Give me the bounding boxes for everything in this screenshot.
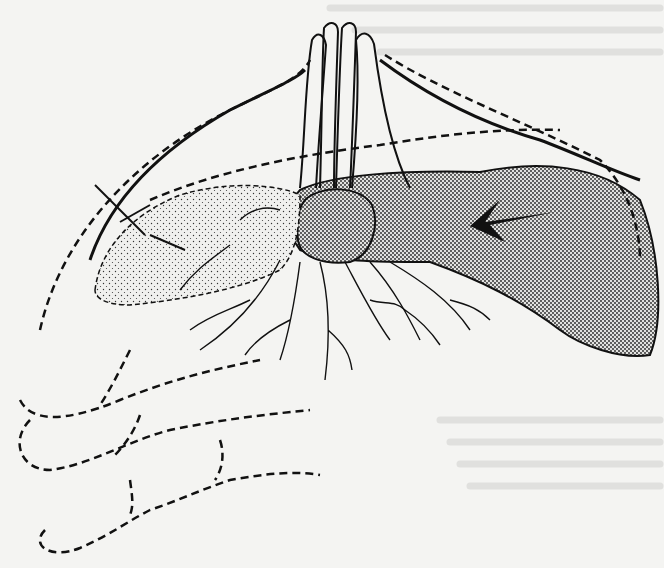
thumbnail [297, 189, 375, 262]
palm-shading [95, 186, 300, 305]
illustration [0, 0, 664, 568]
dashed-finger-outlines [20, 350, 320, 552]
raised-fingers [300, 23, 410, 188]
